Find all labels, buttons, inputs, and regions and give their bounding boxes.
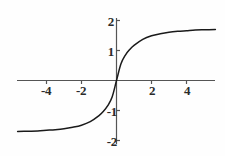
plot-figure: -4 -2 2 4 2 1 -1 -2 [0,0,225,156]
x-tick-label-minus2: -2 [76,84,86,97]
y-tick-label-minus2: -2 [107,135,117,148]
x-tick-label-minus4: -4 [41,84,51,97]
y-tick-label-minus1: -1 [107,105,117,118]
y-tick-label-1: 1 [108,45,114,58]
x-tick-label-2: 2 [149,84,155,97]
y-tick-label-2: 2 [108,15,114,28]
x-tick-label-4: 4 [184,84,190,97]
